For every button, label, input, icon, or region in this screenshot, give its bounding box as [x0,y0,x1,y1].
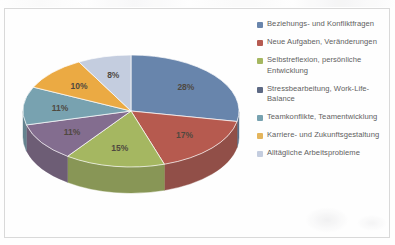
legend-swatch-icon [257,40,263,46]
legend-item-label: Beziehungs- und Konfliktfragen [267,19,374,30]
legend-item[interactable]: Selbstreflexion, persönliche Entwicklung [257,55,389,76]
chart-legend: Beziehungs- und Konfliktfragen Neue Aufg… [257,19,389,231]
pie-slice-data-label: 17% [176,130,193,140]
pie-chart-3d: 28%17%15%11%11%10%8% [11,49,251,199]
pie-slice-data-label: 11% [52,103,69,113]
legend-swatch-icon [257,151,263,157]
legend-swatch-icon [257,58,263,64]
pie-slice-data-label: 28% [177,82,194,92]
legend-item[interactable]: Neue Aufgaben, Veränderungen [257,37,389,48]
legend-item[interactable]: Beziehungs- und Konfliktfragen [257,19,389,30]
legend-item-label: Selbstreflexion, persönliche Entwicklung [267,55,389,76]
scan-artifact-top [0,0,395,7]
pie-slice-data-label: 10% [70,81,87,91]
legend-item-label: Stressbearbeitung, Work-Life-Balance [267,84,389,105]
legend-item[interactable]: Teamkonflikte, Teamentwicklung [257,112,389,123]
pie-slice-data-label: 11% [64,127,81,137]
legend-item[interactable]: Alltägliche Arbeitsprobleme [257,148,389,159]
legend-swatch-icon [257,22,263,28]
pie-chart-svg: 28%17%15%11%11%10%8% [11,49,251,199]
pie-slice-data-label: 8% [107,70,120,80]
legend-item-label: Teamkonflikte, Teamentwicklung [267,112,377,123]
pie-slice-data-label: 15% [111,143,128,153]
legend-item[interactable]: Stressbearbeitung, Work-Life-Balance [257,84,389,105]
legend-item-label: Alltägliche Arbeitsprobleme [267,148,360,159]
legend-item[interactable]: Karriere- und Zukunftsgestaltung [257,130,389,141]
pie-chart-plot-area: 28%17%15%11%11%10%8% [5,9,257,237]
legend-item-label: Karriere- und Zukunftsgestaltung [267,130,379,141]
legend-swatch-icon [257,87,263,93]
chart-frame: 28%17%15%11%11%10%8% Beziehungs- und Kon… [4,8,390,238]
legend-swatch-icon [257,115,263,121]
legend-item-label: Neue Aufgaben, Veränderungen [267,37,377,48]
legend-swatch-icon [257,133,263,139]
